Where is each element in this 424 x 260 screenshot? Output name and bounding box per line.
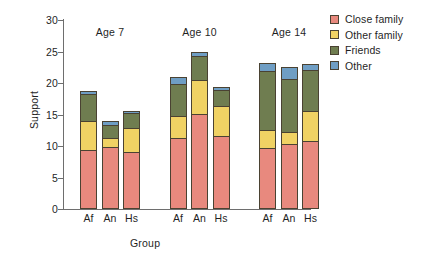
x-axis-spine xyxy=(63,209,311,210)
group-label-age-14: Age 14 xyxy=(254,26,324,38)
bar-segment[interactable] xyxy=(123,152,140,209)
bar-segment[interactable] xyxy=(213,136,230,209)
legend-item[interactable]: Other xyxy=(330,60,403,72)
bar-segment[interactable] xyxy=(170,138,187,209)
y-axis-label: Support xyxy=(28,70,40,150)
group-label-age-7: Age 7 xyxy=(75,26,145,38)
bar-segment[interactable] xyxy=(191,80,208,114)
bar-segment[interactable] xyxy=(259,130,276,148)
legend-swatch-icon xyxy=(330,61,339,70)
y-tick-label-25: 25 xyxy=(6,46,58,58)
bar-segment[interactable] xyxy=(191,56,208,80)
bar-segment[interactable] xyxy=(259,148,276,209)
bar-segment[interactable] xyxy=(102,125,119,138)
y-tick-0 xyxy=(58,209,64,210)
bar-stack[interactable] xyxy=(80,91,97,209)
legend-swatch-icon xyxy=(330,15,339,24)
bar-segment[interactable] xyxy=(302,70,319,111)
x-tick-label-hs-8: Hs xyxy=(298,212,324,224)
y-tick-label-5: 5 xyxy=(6,172,58,184)
bar-segment[interactable] xyxy=(281,79,298,132)
legend: Close familyOther familyFriendsOther xyxy=(330,13,403,72)
x-tick-label-hs-5: Hs xyxy=(208,212,234,224)
bar-segment[interactable] xyxy=(259,71,276,130)
legend-label: Close family xyxy=(345,13,403,25)
bar-stack[interactable] xyxy=(302,64,319,210)
y-tick-label-0: 0 xyxy=(6,203,58,215)
bar-stack[interactable] xyxy=(259,63,276,209)
group-label-age-10: Age 10 xyxy=(165,26,235,38)
bar-segment[interactable] xyxy=(170,77,187,85)
bar-segment[interactable] xyxy=(213,106,230,136)
bar-segment[interactable] xyxy=(123,128,140,151)
bar-stack[interactable] xyxy=(281,67,298,209)
legend-item[interactable]: Other family xyxy=(330,29,403,41)
plot-area xyxy=(64,20,302,209)
bar-segment[interactable] xyxy=(170,116,187,138)
legend-item[interactable]: Friends xyxy=(330,44,403,56)
bar-stack[interactable] xyxy=(102,121,119,209)
bar-segment[interactable] xyxy=(213,90,230,106)
bar-segment[interactable] xyxy=(302,111,319,141)
x-axis-label: Group xyxy=(130,237,160,249)
legend-label: Other family xyxy=(345,29,403,41)
legend-swatch-icon xyxy=(330,46,339,55)
bar-stack[interactable] xyxy=(213,87,230,209)
bar-segment[interactable] xyxy=(281,67,298,79)
legend-label: Friends xyxy=(345,44,381,56)
y-tick-label-30: 30 xyxy=(6,14,58,26)
bar-stack[interactable] xyxy=(170,77,187,209)
bar-segment[interactable] xyxy=(281,132,298,144)
bar-stack[interactable] xyxy=(191,52,208,209)
bar-segment[interactable] xyxy=(281,144,298,209)
bar-segment[interactable] xyxy=(123,113,140,128)
bar-segment[interactable] xyxy=(80,150,97,209)
bar-segment[interactable] xyxy=(102,138,119,146)
bar-segment[interactable] xyxy=(102,147,119,209)
bar-stack[interactable] xyxy=(123,111,140,209)
bar-segment[interactable] xyxy=(80,94,97,120)
bar-segment[interactable] xyxy=(191,114,208,209)
bar-segment[interactable] xyxy=(170,84,187,116)
bar-segment[interactable] xyxy=(80,121,97,150)
legend-swatch-icon xyxy=(330,30,339,39)
stacked-bar-chart: 051015202530 Support Group AfAnHsAfAnHsA… xyxy=(0,0,424,260)
bar-segment[interactable] xyxy=(302,64,319,71)
bar-segment[interactable] xyxy=(302,141,319,209)
legend-label: Other xyxy=(345,60,372,72)
bar-segment[interactable] xyxy=(259,63,276,71)
x-tick-label-hs-2: Hs xyxy=(119,212,145,224)
legend-item[interactable]: Close family xyxy=(330,13,403,25)
